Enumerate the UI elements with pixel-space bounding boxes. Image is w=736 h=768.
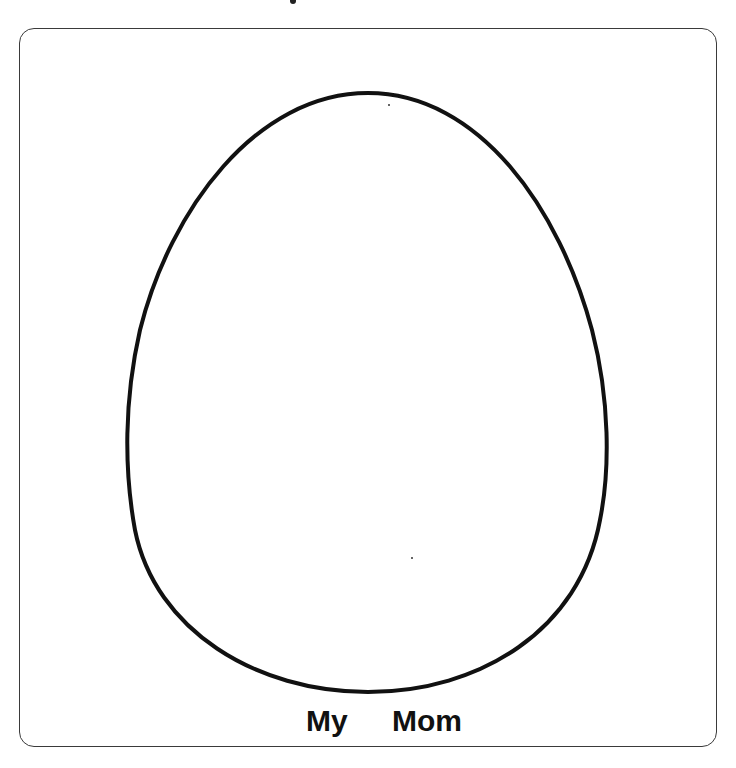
- paper-speck: [388, 104, 390, 106]
- caption-word-my: My: [306, 704, 348, 738]
- caption: My Mom: [0, 704, 736, 744]
- caption-word-mom: Mom: [392, 704, 462, 738]
- paper-speck: [411, 557, 413, 559]
- egg-outline: [0, 0, 736, 768]
